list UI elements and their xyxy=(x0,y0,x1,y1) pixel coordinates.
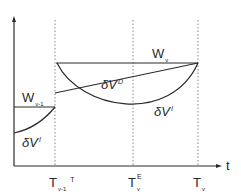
dv-prev-curve xyxy=(14,107,55,133)
label-dv-curr: δVI xyxy=(154,105,173,118)
tick-label-t-v-1: Tv-1T xyxy=(49,176,75,189)
tick-label-t-v-e: TEv xyxy=(128,176,140,189)
label-w-prev: Wv-1 xyxy=(22,91,44,104)
label-dv-prev: δVI xyxy=(22,136,41,149)
y-axis-arrow-icon xyxy=(12,16,16,22)
label-dv-d: δVD xyxy=(101,78,123,91)
x-axis-arrow-icon xyxy=(216,164,222,168)
x-axis-label: t xyxy=(226,159,230,172)
dv-curr-arc xyxy=(57,63,198,104)
tick-label-t-v: Tv xyxy=(193,176,205,189)
dv-d-line xyxy=(55,63,198,93)
label-w-curr: Wv xyxy=(152,47,168,60)
